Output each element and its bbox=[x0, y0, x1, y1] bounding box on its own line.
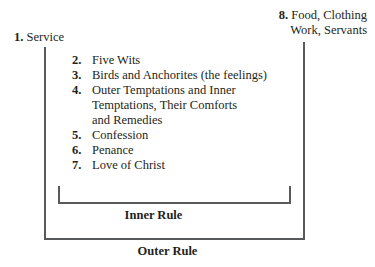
list-item: 3. Birds and Anchorites (the feelings) bbox=[72, 68, 267, 83]
inner-rule-item-list: 2. Five Wits 3. Birds and Anchorites (th… bbox=[72, 53, 267, 173]
node-service: 1. Service bbox=[14, 30, 64, 45]
list-item-line: Love of Christ bbox=[92, 158, 267, 173]
list-item: 6. Penance bbox=[72, 143, 267, 158]
node-service-number: 1. bbox=[14, 30, 23, 44]
list-item-line: Confession bbox=[92, 128, 267, 143]
list-item-number: 5. bbox=[72, 128, 81, 143]
node-provisions-line-2: Work, Servants bbox=[279, 23, 367, 38]
structure-diagram: 1. Service 8. Food, Clothing Work, Serva… bbox=[0, 0, 375, 267]
node-provisions-number: 8. bbox=[279, 8, 288, 22]
inner-bracket-bottom-line bbox=[58, 202, 291, 204]
outer-rule-caption: Outer Rule bbox=[0, 244, 355, 259]
inner-rule-caption: Inner Rule bbox=[0, 208, 341, 223]
node-provisions-line-1: 8. Food, Clothing bbox=[279, 8, 367, 23]
list-item-line: Birds and Anchorites (the feelings) bbox=[92, 68, 267, 83]
list-item-number: 6. bbox=[72, 143, 81, 158]
list-item: 4. Outer Temptations and Inner Temptatio… bbox=[72, 83, 267, 128]
list-item-line: Temptations, Their Comforts bbox=[92, 98, 267, 113]
list-item-number: 2. bbox=[72, 53, 81, 68]
node-provisions: 8. Food, Clothing Work, Servants bbox=[279, 8, 367, 38]
node-service-label: Service bbox=[27, 30, 64, 44]
outer-bracket-bottom-line bbox=[44, 238, 305, 240]
list-item-number: 4. bbox=[72, 83, 81, 98]
node-provisions-label-1: Food, Clothing bbox=[291, 8, 367, 22]
list-item-number: 7. bbox=[72, 158, 81, 173]
list-item: 5. Confession bbox=[72, 128, 267, 143]
list-item-line: and Remedies bbox=[92, 113, 267, 128]
list-item-number: 3. bbox=[72, 68, 81, 83]
list-item: 2. Five Wits bbox=[72, 53, 267, 68]
list-item-line: Penance bbox=[92, 143, 267, 158]
list-item: 7. Love of Christ bbox=[72, 158, 267, 173]
list-item-line: Outer Temptations and Inner bbox=[92, 83, 267, 98]
list-item-line: Five Wits bbox=[92, 53, 267, 68]
